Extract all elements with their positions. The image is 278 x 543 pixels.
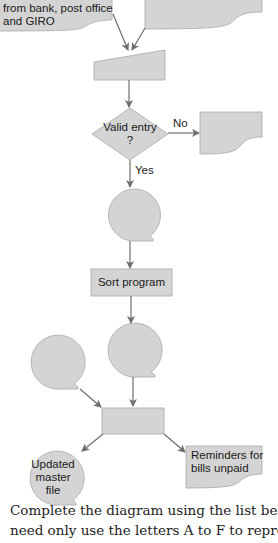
input-document-left-line-1: from bank, post office (3, 2, 113, 15)
edge-label-no: No (173, 117, 188, 130)
updated-master-line-2: master (26, 471, 80, 484)
reminders-line-1: Reminders for (191, 449, 263, 462)
update-process-shape (102, 408, 164, 434)
decision-line-2: ? (92, 134, 168, 147)
arrow-storage-3-to-update (80, 389, 101, 407)
arrow-right-doc-to-input (132, 28, 145, 50)
input-document-left-label: from bank, post office and GIRO (3, 2, 113, 28)
updated-master-line-3: file (26, 484, 80, 497)
arrow-left-doc-to-input (113, 14, 128, 50)
updated-master-line-1: Updated (26, 458, 80, 471)
decision-label: Valid entry ? (92, 121, 168, 147)
arrow-update-to-reminders (164, 434, 185, 452)
sort-program-label: Sort program (91, 276, 172, 289)
reminders-document-label: Reminders for bills unpaid (191, 449, 263, 475)
manual-input-shape (94, 50, 165, 80)
edge-label-yes: Yes (135, 164, 154, 177)
input-document-right-shape (145, 0, 262, 29)
error-document-shape (200, 112, 262, 154)
decision-line-1: Valid entry (92, 121, 168, 134)
instructions-paragraph: Complete the diagram using the list belo… (10, 500, 278, 540)
storage-3-shape (31, 335, 85, 389)
storage-1-shape (109, 189, 161, 241)
instructions-line-1: Complete the diagram using the list belo… (10, 500, 278, 520)
arrow-update-to-master (82, 434, 103, 451)
reminders-line-2: bills unpaid (191, 462, 263, 475)
input-document-left-line-2: and GIRO (3, 15, 113, 28)
storage-2-shape (108, 323, 162, 377)
updated-master-file-label: Updated master file (26, 458, 80, 497)
instructions-line-2: need only use the letters A to F to repr… (10, 520, 278, 540)
